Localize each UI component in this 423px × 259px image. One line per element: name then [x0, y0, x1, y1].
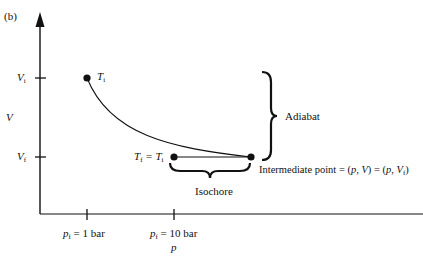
y-tick-vi-main: V	[17, 71, 24, 83]
intermediate-mid2: ) = (	[368, 164, 386, 175]
intermediate-suffix: )	[405, 164, 409, 175]
adiabat-label: Adiabat	[285, 111, 320, 122]
y-tick-label-vf: Vf	[17, 151, 26, 164]
y-axis-arrow-icon	[36, 12, 45, 27]
adiabat-curve	[87, 78, 251, 157]
y-axis-label: V	[6, 112, 13, 123]
initial-point	[83, 74, 90, 81]
y-tick-vf-sub: f	[24, 156, 26, 164]
intermediate-point-label: Intermediate point = (p, V) = (p, Vf)	[259, 165, 409, 177]
initial-point-label: Ti	[97, 71, 105, 84]
final-point-label: Tf = Ti	[134, 151, 163, 164]
diagram-canvas	[0, 0, 423, 259]
panel-label: (b)	[4, 11, 17, 22]
final-point-label-eq-sub: i	[162, 156, 164, 164]
final-point-label-eq: = T	[142, 150, 161, 162]
intermediate-prefix: Intermediate point = (	[259, 164, 351, 175]
isochore-brace-icon	[170, 163, 250, 178]
x-axis-label: p	[171, 242, 177, 253]
intermediate-point	[247, 153, 254, 160]
final-point	[170, 153, 177, 160]
isochore-label: Isochore	[195, 186, 233, 197]
adiabat-brace-icon	[262, 72, 277, 160]
y-tick-vi-sub: i	[24, 77, 26, 85]
x-tick-label-1bar: pf = 1 bar	[63, 228, 105, 241]
y-tick-vf-main: V	[17, 150, 24, 162]
x-tick-10bar-rest: = 10 bar	[158, 227, 198, 239]
x-tick-1bar-rest: = 1 bar	[71, 227, 105, 239]
y-tick-label-vi: Vi	[17, 72, 26, 85]
x-tick-label-10bar: pf = 10 bar	[150, 228, 197, 241]
initial-point-label-sub: i	[103, 76, 105, 84]
